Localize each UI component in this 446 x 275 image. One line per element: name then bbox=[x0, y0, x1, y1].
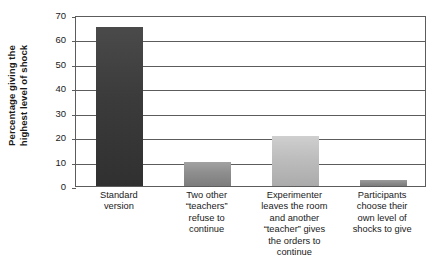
x-axis-category-label-line: and another bbox=[251, 213, 339, 224]
y-axis-tick-label: 50 bbox=[55, 60, 66, 70]
x-axis-category-label-line: version bbox=[75, 201, 163, 212]
bar-slot bbox=[272, 17, 319, 186]
bar-slot bbox=[184, 17, 231, 186]
x-axis-category-label-line: “teachers” bbox=[163, 201, 251, 212]
y-axis-tick-label: 60 bbox=[55, 35, 66, 45]
bar[interactable] bbox=[272, 136, 319, 186]
bar[interactable] bbox=[96, 27, 143, 186]
plot-area bbox=[75, 16, 426, 187]
x-axis-category-label-line: continue bbox=[163, 224, 251, 235]
y-axis-tick-label: 30 bbox=[55, 109, 66, 119]
y-axis-tick-labels: 010203040506070 bbox=[38, 0, 70, 200]
x-axis-category-label-line: Experimenter bbox=[251, 190, 339, 201]
y-axis-title: Percentage giving the highest level of s… bbox=[0, 0, 36, 190]
x-axis-category-label-line: Two other bbox=[163, 190, 251, 201]
x-axis-category-label: Participantschoose theirown level ofshoc… bbox=[338, 190, 426, 236]
bar-chart-figure: Percentage giving the highest level of s… bbox=[0, 0, 446, 275]
x-axis-category-label-line: the orders to bbox=[251, 236, 339, 247]
x-axis-category-label-line: Standard bbox=[75, 190, 163, 201]
x-axis-category-label-line: choose their bbox=[338, 201, 426, 212]
y-axis-title-line-1: Percentage giving the bbox=[7, 44, 19, 145]
y-axis-tick-label: 40 bbox=[55, 84, 66, 94]
bar[interactable] bbox=[184, 162, 231, 186]
y-axis-tick-label: 0 bbox=[61, 182, 66, 192]
x-axis-category-label-line: continue bbox=[251, 247, 339, 258]
x-axis-category-label-line: Participants bbox=[338, 190, 426, 201]
x-axis-category-labels: StandardversionTwo other“teachers”refuse… bbox=[75, 190, 426, 275]
y-axis-title-line-2: highest level of shock bbox=[18, 44, 30, 145]
y-axis-tick-mark bbox=[72, 188, 76, 189]
y-axis-tick-label: 70 bbox=[55, 11, 66, 21]
x-axis-category-label-line: leaves the room bbox=[251, 201, 339, 212]
x-axis-category-label: Standardversion bbox=[75, 190, 163, 213]
bars-layer bbox=[76, 17, 425, 186]
bar[interactable] bbox=[360, 180, 407, 186]
x-axis-category-label: Two other“teachers”refuse tocontinue bbox=[163, 190, 251, 236]
x-axis-category-label-line: shocks to give bbox=[338, 224, 426, 235]
x-axis-category-label-line: own level of bbox=[338, 213, 426, 224]
x-axis-category-label-line: refuse to bbox=[163, 213, 251, 224]
x-axis-category-label-line: “teacher” gives bbox=[251, 224, 339, 235]
y-axis-tick-label: 20 bbox=[55, 133, 66, 143]
bar-slot bbox=[360, 17, 407, 186]
bar-slot bbox=[96, 17, 143, 186]
y-axis-tick-label: 10 bbox=[55, 158, 66, 168]
x-axis-category-label: Experimenterleaves the roomand another“t… bbox=[251, 190, 339, 258]
